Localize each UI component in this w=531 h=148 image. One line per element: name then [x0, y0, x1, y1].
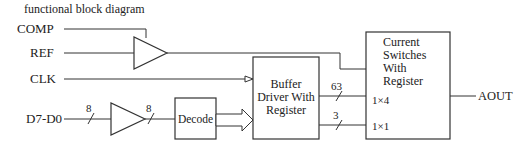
aout-label: AOUT [478, 89, 513, 103]
current-switches-label-1: Current [383, 35, 420, 49]
data-input-label: D7-D0 [26, 111, 62, 126]
clk-arrow-icon [245, 76, 253, 82]
input-buffer-icon [111, 103, 145, 135]
functional-block-diagram: functional block diagram COMP REF CLK D7… [0, 0, 531, 148]
current-switches-label-4: Register [383, 74, 423, 88]
decode-label: Decode [178, 113, 213, 125]
data-in-width: 8 [86, 102, 92, 114]
comp-label: COMP [17, 21, 54, 36]
buffer-driver-label-2: Driver With [257, 90, 315, 104]
reference-amplifier-icon [134, 37, 167, 69]
buffer-driver-label-3: Register [266, 103, 306, 117]
current-switches-label-3: With [383, 61, 407, 75]
switch-port-upper: 1×4 [372, 94, 390, 106]
diagram-title: functional block diagram [24, 2, 145, 16]
switch-port-lower: 1×1 [372, 120, 389, 132]
current-switches-label-2: Switches [383, 48, 427, 62]
buffer-driver-label-1: Buffer [270, 77, 301, 91]
lower-bus-width: 3 [333, 109, 339, 121]
clk-label: CLK [30, 71, 57, 86]
ref-label: REF [30, 45, 54, 60]
bus-arrow-icon [216, 109, 253, 131]
upper-bus-width: 63 [331, 80, 343, 92]
data-buffered-width: 8 [146, 102, 152, 114]
